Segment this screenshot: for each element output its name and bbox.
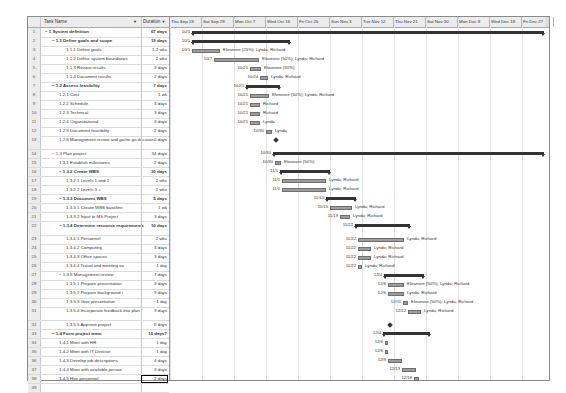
row-number[interactable]: 13 <box>28 136 41 149</box>
row-number[interactable]: 17 <box>28 177 41 186</box>
duration-header[interactable]: Duration ▼ <box>141 17 171 27</box>
task-name-filter-icon[interactable]: ▼ <box>133 17 137 27</box>
duration-cell[interactable]: 2 days <box>141 73 168 82</box>
row-number[interactable]: 21 <box>28 213 41 222</box>
task-bar[interactable] <box>358 238 404 242</box>
duration-cell[interactable]: 0 days <box>141 136 168 149</box>
row-number[interactable]: 32 <box>28 321 41 330</box>
row-number[interactable]: 33 <box>28 330 41 339</box>
duration-cell[interactable] <box>141 384 168 393</box>
duration-cell[interactable]: 0 days <box>141 321 168 330</box>
task-bar[interactable] <box>192 49 220 53</box>
duration-cell[interactable]: 1.2 wks <box>141 46 168 55</box>
row-number[interactable]: 11 <box>28 118 41 127</box>
row-number[interactable]: 7 <box>28 82 41 91</box>
summary-bar[interactable] <box>280 170 330 173</box>
row-number[interactable]: 5 <box>28 64 41 73</box>
task-bar[interactable] <box>340 215 350 219</box>
duration-cell[interactable]: 4 days <box>141 357 168 366</box>
task-bar[interactable] <box>250 112 260 116</box>
task-name-cell[interactable]: − 1.4 Form project team <box>41 330 152 339</box>
row-number[interactable]: 14 <box>28 150 41 159</box>
task-bar[interactable] <box>358 247 371 251</box>
row-number[interactable]: 10 <box>28 109 41 118</box>
duration-cell[interactable]: 3 days <box>141 118 168 127</box>
duration-cell[interactable]: 3 days <box>141 109 168 118</box>
task-name-cell[interactable] <box>41 384 145 393</box>
task-bar[interactable] <box>266 130 272 134</box>
task-bar[interactable] <box>388 359 402 363</box>
duration-cell[interactable]: 2 wks <box>141 55 168 64</box>
duration-cell[interactable]: 10 days? <box>141 330 168 339</box>
summary-bar[interactable] <box>384 274 424 277</box>
row-number[interactable]: 20 <box>28 204 41 213</box>
task-bar[interactable] <box>358 256 371 260</box>
row-number[interactable]: 35 <box>28 348 41 357</box>
task-bar[interactable] <box>250 103 260 107</box>
task-bar[interactable] <box>282 188 326 192</box>
summary-bar[interactable] <box>246 85 280 88</box>
summary-bar[interactable] <box>355 224 410 227</box>
row-number[interactable]: 16 <box>28 168 41 177</box>
duration-cell[interactable]: 2 wks <box>141 186 168 195</box>
duration-cell[interactable]: 3 days <box>141 366 168 375</box>
row-number[interactable]: 12 <box>28 127 41 136</box>
task-bar[interactable] <box>214 58 259 62</box>
task-bar[interactable] <box>388 292 404 296</box>
duration-cell[interactable]: 3 days <box>141 213 168 222</box>
summary-bar[interactable] <box>273 152 544 155</box>
duration-cell[interactable]: 1 day <box>141 348 168 357</box>
row-number[interactable]: 31 <box>28 307 41 320</box>
scroll-button[interactable] <box>545 17 549 27</box>
duration-cell[interactable]: 2 days <box>141 159 168 168</box>
task-bar[interactable] <box>250 67 261 71</box>
task-name-header[interactable]: Task Name <box>44 17 67 27</box>
row-number[interactable]: 30 <box>28 298 41 307</box>
task-bar[interactable] <box>358 265 362 269</box>
row-number[interactable]: 2 <box>28 37 41 46</box>
row-number[interactable]: 9 <box>28 100 41 109</box>
task-bar[interactable] <box>260 76 268 80</box>
duration-cell[interactable]: 19 days <box>141 37 168 46</box>
row-number[interactable]: 3 <box>28 46 41 55</box>
duration-cell[interactable]: 3 days <box>141 253 168 262</box>
duration-cell[interactable]: 5 days <box>141 195 168 204</box>
row-number[interactable]: 1 <box>28 28 41 37</box>
row-number[interactable]: 36 <box>28 357 41 366</box>
select-all-corner[interactable] <box>28 17 41 27</box>
duration-cell[interactable]: 2 wks <box>141 177 168 186</box>
task-name-cell[interactable]: − 1.2 Assess feasibility <box>41 82 152 91</box>
task-bar[interactable] <box>250 121 260 125</box>
task-bar[interactable] <box>385 350 388 354</box>
row-number[interactable]: 37 <box>28 366 41 375</box>
row-number[interactable]: 18 <box>28 186 41 195</box>
milestone-diamond[interactable] <box>273 137 279 143</box>
row-number[interactable]: 28 <box>28 280 41 289</box>
duration-cell[interactable]: 3 days <box>141 289 168 298</box>
duration-filter-icon[interactable]: ▼ <box>160 19 165 24</box>
task-bar[interactable] <box>385 341 388 345</box>
row-number[interactable]: 27 <box>28 271 41 280</box>
duration-cell[interactable]: 1 day <box>141 339 168 348</box>
row-number[interactable]: 8 <box>28 91 41 100</box>
task-bar[interactable] <box>250 94 269 98</box>
row-number[interactable]: 29 <box>28 289 41 298</box>
duration-cell[interactable]: 10 days <box>141 222 168 235</box>
table-row[interactable]: 311.3.5.4 Incorporate feedback into plan… <box>28 307 169 321</box>
task-bar[interactable] <box>402 368 416 372</box>
duration-cell[interactable]: 34 days <box>141 150 168 159</box>
duration-cell[interactable]: 3 days <box>141 244 168 253</box>
duration-cell[interactable]: 7 days <box>141 82 168 91</box>
duration-cell[interactable]: 3 days <box>141 307 168 320</box>
task-name-cell[interactable]: − 1 System definition <box>41 28 145 37</box>
task-bar[interactable] <box>275 161 281 165</box>
row-number[interactable]: 26 <box>28 262 41 271</box>
duration-cell[interactable]: 3 days <box>141 64 168 73</box>
row-number[interactable]: 4 <box>28 55 41 64</box>
duration-cell[interactable]: 2 wks <box>141 235 168 244</box>
task-bar[interactable] <box>388 283 404 287</box>
task-bar[interactable] <box>282 179 326 183</box>
summary-bar[interactable] <box>192 40 290 43</box>
table-row[interactable]: 131.2.6 Management review and go/no go d… <box>28 136 169 150</box>
row-number[interactable]: 25 <box>28 253 41 262</box>
